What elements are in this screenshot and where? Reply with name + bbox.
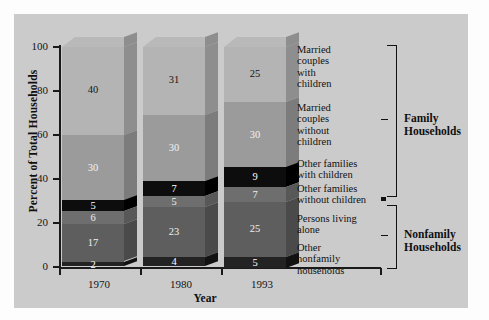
segment-1993-married-without-children[interactable]: 30 bbox=[224, 102, 286, 168]
segment-value: 5 bbox=[143, 197, 205, 208]
legend-line: with children bbox=[297, 169, 357, 180]
segment-1993-other-families-without-children[interactable]: 7 bbox=[224, 187, 286, 202]
segment-value: 25 bbox=[224, 224, 286, 235]
x-tick-label-1993: 1993 bbox=[227, 278, 297, 290]
segment-value: 17 bbox=[62, 238, 124, 249]
bracket-nonfamily-nib bbox=[381, 235, 388, 236]
bracket-nonfamily-households bbox=[387, 205, 397, 269]
legend-line: Persons living bbox=[297, 213, 357, 224]
bracket-label-line: Households bbox=[404, 125, 461, 138]
x-tick-label-1970: 1970 bbox=[64, 278, 134, 290]
segment-value: 30 bbox=[62, 163, 124, 174]
legend-line: Married bbox=[297, 44, 331, 55]
legend-line: without bbox=[297, 125, 331, 136]
segment-value: 23 bbox=[143, 227, 205, 238]
segment-side bbox=[205, 202, 218, 257]
segment-1980-other-nonfamily[interactable]: 4 bbox=[143, 257, 205, 266]
legend-line: without children bbox=[297, 194, 366, 205]
x-axis-title: Year bbox=[150, 292, 260, 304]
x-tick-start bbox=[59, 268, 61, 275]
segment-value: 4 bbox=[143, 257, 205, 268]
segment-1970-persons-living-alone[interactable]: 17 bbox=[62, 224, 124, 261]
segment-value: 30 bbox=[143, 143, 205, 154]
bar-1970[interactable]: 40 30 5 6 17 2 bbox=[62, 47, 124, 266]
segment-1980-other-families-with-children[interactable]: 7 bbox=[143, 181, 205, 196]
y-tick-label-80: 80 bbox=[2, 84, 48, 96]
segment-1970-other-families-without-children[interactable]: 6 bbox=[62, 211, 124, 224]
segment-side bbox=[124, 220, 137, 262]
bracket-label-nonfamily-households: Nonfamily Households bbox=[404, 228, 461, 253]
segment-side bbox=[205, 42, 218, 115]
legend-item-other-families-with-children: Other families with children bbox=[297, 158, 357, 181]
legend-line: children bbox=[297, 78, 331, 89]
legend-line: couples bbox=[297, 55, 331, 66]
chart-figure: 100 80 60 40 20 0 Percent of Total House… bbox=[0, 0, 489, 320]
y-axis-title: Percent of Total Households bbox=[27, 46, 39, 236]
bar-1980[interactable]: 31 30 7 5 23 4 bbox=[143, 47, 205, 266]
legend-line: Other families bbox=[297, 183, 366, 194]
segment-1970-other-families-with-children[interactable]: 5 bbox=[62, 200, 124, 211]
segment-value: 30 bbox=[224, 130, 286, 141]
legend-item-persons-living-alone: Persons living alone bbox=[297, 213, 357, 236]
x-tick-1 bbox=[140, 268, 142, 275]
segment-1970-married-without-children[interactable]: 30 bbox=[62, 135, 124, 201]
segment-1980-married-without-children[interactable]: 30 bbox=[143, 115, 205, 181]
legend-item-married-couples-without-children: Married couples without children bbox=[297, 102, 331, 148]
y-tick-label-0: 0 bbox=[2, 260, 48, 272]
legend-line: alone bbox=[297, 224, 357, 235]
legend-line: children bbox=[297, 136, 331, 147]
segment-value: 2 bbox=[62, 260, 124, 271]
x-tick-end bbox=[380, 268, 382, 275]
segment-side bbox=[205, 110, 218, 180]
y-axis-line bbox=[59, 45, 61, 268]
segment-value: 31 bbox=[143, 75, 205, 86]
y-tick-80 bbox=[53, 90, 59, 92]
bracket-label-line: Nonfamily bbox=[404, 228, 461, 241]
legend-line: with bbox=[297, 67, 331, 78]
segment-value: 5 bbox=[224, 258, 286, 269]
segment-side bbox=[124, 130, 137, 200]
bracket-label-line: Households bbox=[404, 241, 461, 254]
segment-value: 40 bbox=[62, 85, 124, 96]
segment-1980-other-families-without-children[interactable]: 5 bbox=[143, 196, 205, 207]
plot-area: 100 80 60 40 20 0 Percent of Total House… bbox=[0, 0, 489, 320]
segment-1980-persons-living-alone[interactable]: 23 bbox=[143, 207, 205, 257]
legend-item-other-families-without-children: Other families without children bbox=[297, 183, 366, 206]
segment-value: 7 bbox=[143, 184, 205, 195]
segment-1970-other-nonfamily[interactable]: 2 bbox=[62, 262, 124, 266]
segment-1980-married-with-children[interactable]: 31 bbox=[143, 47, 205, 115]
x-tick-label-1980: 1980 bbox=[146, 278, 216, 290]
legend-line: couples bbox=[297, 113, 331, 124]
segment-value: 6 bbox=[62, 213, 124, 224]
bracket-family-nib bbox=[381, 119, 388, 120]
legend-line: Other families bbox=[297, 158, 357, 169]
y-tick-20 bbox=[53, 222, 59, 224]
y-tick-label-40: 40 bbox=[2, 172, 48, 184]
segment-1993-persons-living-alone[interactable]: 25 bbox=[224, 202, 286, 257]
y-tick-100 bbox=[53, 46, 59, 48]
legend-item-married-couples-with-children: Married couples with children bbox=[297, 44, 331, 90]
segment-1970-married-with-children[interactable]: 40 bbox=[62, 47, 124, 135]
legend-item-other-nonfamily-households: Other nonfamily households bbox=[297, 242, 344, 276]
segment-value: 25 bbox=[224, 69, 286, 80]
legend-line: Other bbox=[297, 242, 344, 253]
segment-1993-married-with-children[interactable]: 25 bbox=[224, 47, 286, 102]
bracket-family-households bbox=[387, 45, 397, 197]
legend-line: Married bbox=[297, 102, 331, 113]
segment-value: 9 bbox=[224, 172, 286, 183]
y-tick-60 bbox=[53, 134, 59, 136]
bracket-label-line: Family bbox=[404, 112, 461, 125]
segment-value: 7 bbox=[224, 190, 286, 201]
y-tick-label-60: 60 bbox=[2, 128, 48, 140]
y-tick-label-100: 100 bbox=[2, 40, 48, 52]
bracket-divider-tab bbox=[381, 197, 386, 201]
bar-1993[interactable]: 25 30 9 7 25 5 bbox=[224, 47, 286, 266]
y-tick-label-20: 20 bbox=[2, 216, 48, 228]
y-tick-40 bbox=[53, 178, 59, 180]
x-tick-2 bbox=[221, 268, 223, 275]
segment-side bbox=[124, 42, 137, 134]
segment-1993-other-nonfamily[interactable]: 5 bbox=[224, 257, 286, 268]
legend-line: nonfamily bbox=[297, 253, 344, 264]
segment-value: 5 bbox=[62, 201, 124, 212]
segment-1993-other-families-with-children[interactable]: 9 bbox=[224, 167, 286, 187]
